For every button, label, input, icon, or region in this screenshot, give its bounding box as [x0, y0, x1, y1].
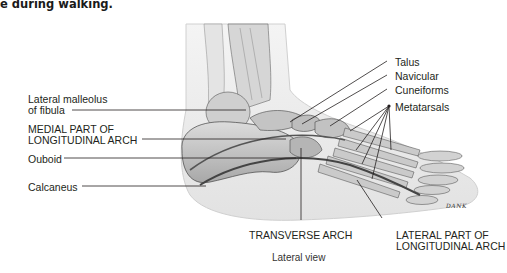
label-talus: Talus [395, 56, 420, 68]
label-navicular: Navicular [395, 70, 439, 82]
label-medial-arch-line2: LONGITUDINAL ARCH [28, 134, 137, 146]
label-cuneiforms: Cuneiforms [395, 84, 449, 96]
label-cuboid: Ouboid [28, 153, 62, 165]
label-transverse-arch: TRANSVERSE ARCH [249, 229, 352, 241]
label-lateral-malleolus-line2: of fibula [28, 104, 65, 116]
leader-talus [290, 61, 387, 122]
label-calcaneus: Calcaneus [28, 181, 78, 193]
label-lateral-arch-line2: LONGITUDINAL ARCH [396, 240, 505, 252]
artist-signature: DANK [446, 202, 467, 209]
label-metatarsals: Metatarsals [395, 101, 449, 113]
view-label: Lateral view [272, 252, 325, 263]
